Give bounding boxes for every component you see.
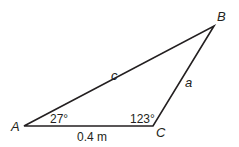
vertex-label-c: C (156, 125, 166, 140)
triangle-diagram: A C B c a 0.4 m 27° 123° (0, 0, 239, 147)
angle-label-c: 123° (130, 112, 155, 126)
vertex-label-a: A (10, 119, 20, 134)
vertex-label-b: B (217, 9, 226, 24)
side-label-a: a (185, 75, 192, 90)
side-label-b: 0.4 m (77, 130, 107, 144)
angle-label-a: 27° (50, 112, 68, 126)
side-label-c: c (111, 68, 118, 83)
